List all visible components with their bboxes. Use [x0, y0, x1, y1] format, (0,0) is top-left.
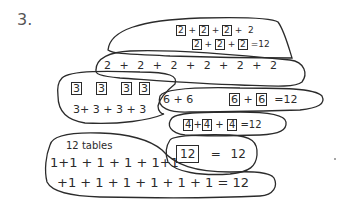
boxed-two: 2 — [176, 25, 186, 36]
sixes-sum: 6 + 6 — [163, 94, 193, 105]
boxed-three: 3 — [96, 82, 107, 95]
boxed-four: 4 — [227, 119, 237, 131]
twelve-eq: 12 = 12 — [176, 145, 246, 163]
boxed-four: 4 — [183, 119, 193, 131]
fours-sum: 4+4 + 4 =12 — [183, 119, 262, 131]
boxed-four: 4 — [202, 119, 212, 131]
twos-sum: 2 + 2 + 2 + 2 + 2 + 2 — [104, 60, 277, 71]
boxed-two: 2 — [238, 39, 248, 50]
boxed-three: 3 — [71, 82, 82, 95]
boxed-two: 2 — [222, 25, 232, 36]
boxed-three: 3 — [121, 82, 132, 95]
boxed-two: 2 — [215, 39, 225, 50]
twos-grouped-line-2: 2 + 2 + 2 =12 — [192, 39, 270, 50]
boxed-six: 6 — [256, 93, 267, 106]
ones-line-2: +1 + 1 + 1 + 1 + 1 + 1 = 12 — [57, 176, 249, 189]
boxed-two: 2 — [199, 25, 209, 36]
boxed-two: 2 — [192, 39, 202, 50]
boxed-three: 3 — [139, 82, 150, 95]
threes-sum: 3+ 3 + 3 + 3 — [73, 104, 146, 115]
ones-line-1: 1+1 + 1 + 1 + 1+1 — [50, 156, 179, 169]
boxed-six: 6 — [229, 93, 240, 106]
sixes-boxed: 6 + 6 =12 — [229, 93, 297, 106]
twos-grouped-line-1: 2 + 2 + 2 + 2 — [176, 25, 254, 36]
threes-boxes: 3 3 3 3 — [71, 82, 150, 95]
ones-label: 12 tables — [66, 141, 112, 151]
stray-mark — [334, 158, 336, 160]
problem-number: 3. — [17, 10, 32, 29]
boxed-twelve: 12 — [176, 145, 199, 163]
